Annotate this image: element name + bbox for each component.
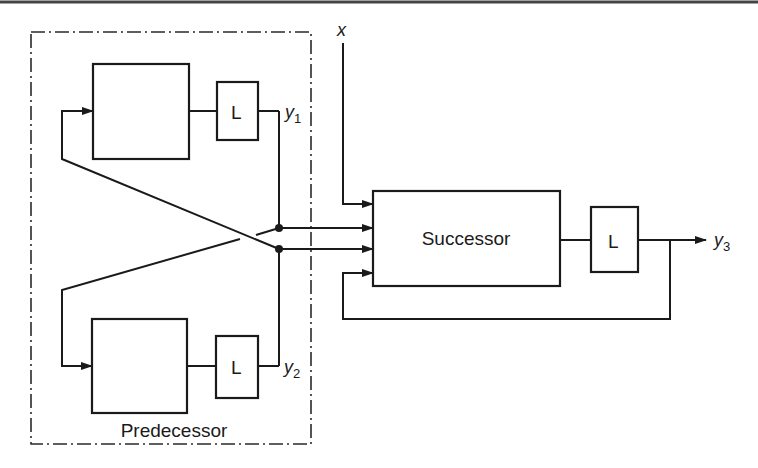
upper-delay-label: L [231,102,242,123]
y1-label: y1 [283,102,301,126]
lower-delay-label: L [231,357,242,378]
y3-label: y3 [712,230,730,254]
predecessor-label: Predecessor [121,420,228,441]
successor-label: Successor [422,228,511,249]
block-diagram: x L L L y1 y2 y3 Successor Predecessor [0,0,758,468]
y2-label: y2 [282,357,300,381]
predecessor-lower-block [92,319,187,413]
predecessor-upper-block [93,64,189,159]
input-x-label: x [336,20,347,40]
successor-delay-label: L [608,231,619,252]
